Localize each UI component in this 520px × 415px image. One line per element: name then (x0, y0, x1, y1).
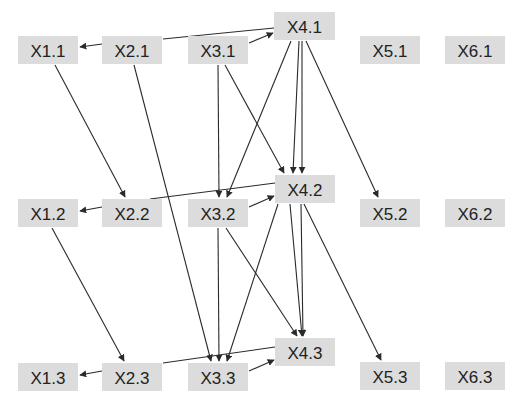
node-label: X4.1 (287, 18, 322, 37)
edge-X4-2-to-X5-3 (304, 204, 381, 360)
edge-X3-1-to-X4-1 (249, 33, 273, 43)
edge-X4-1-to-X3-2 (227, 41, 291, 197)
edge-X1-2-to-X2-3 (52, 228, 124, 361)
node-X5-2: X5.2 (360, 199, 420, 227)
node-label: X6.1 (458, 42, 493, 61)
node-label: X1.1 (31, 42, 66, 61)
node-label: X5.3 (373, 368, 408, 387)
edge-X2-1-to-X1-1 (80, 44, 102, 47)
node-X2-2: X2.2 (102, 199, 162, 227)
edge-X4-1-to-X4-2 (293, 41, 299, 173)
node-X2-3: X2.3 (102, 363, 162, 391)
node-X1-2: X1.2 (18, 199, 78, 227)
causal-graph-diagram: X1.1X2.1X3.1X4.1X5.1X6.1X1.2X2.2X3.2X4.2… (0, 0, 520, 415)
node-label: X6.3 (458, 368, 493, 387)
edge-X1-1-to-X2-2 (55, 65, 125, 197)
node-X5-3: X5.3 (360, 362, 420, 390)
node-X1-1: X1.1 (18, 36, 78, 64)
node-X6-3: X6.3 (445, 362, 505, 390)
edge-X3-1-to-X4-2 (225, 65, 284, 173)
node-X6-1: X6.1 (445, 36, 505, 64)
node-X4-3: X4.3 (275, 338, 335, 366)
edge-X3-2-to-X4-2 (249, 196, 274, 207)
node-label: X2.2 (115, 205, 150, 224)
edge-X3-2-to-X3-3 (218, 228, 219, 361)
node-X1-3: X1.3 (18, 363, 78, 391)
node-label: X6.2 (458, 205, 493, 224)
node-label: X2.1 (115, 42, 150, 61)
node-label: X3.2 (201, 205, 236, 224)
edge-X3-3-to-X4-3 (249, 360, 274, 371)
node-X3-1: X3.1 (188, 36, 248, 64)
node-label: X5.1 (373, 42, 408, 61)
node-label: X5.2 (373, 205, 408, 224)
edge-X3-2-to-X4-3 (226, 228, 297, 336)
node-label: X3.1 (201, 42, 236, 61)
edge-X4-2-to-X4-3 (290, 204, 302, 336)
node-X2-1: X2.1 (102, 36, 162, 64)
node-X5-1: X5.1 (360, 36, 420, 64)
edge-X2-2-to-X1-2 (80, 207, 102, 211)
node-label: X4.2 (288, 181, 323, 200)
edge-X4-2-to-X4-3 (301, 204, 303, 336)
node-X4-2: X4.2 (275, 175, 335, 203)
node-X3-3: X3.3 (188, 363, 248, 391)
node-label: X2.3 (115, 369, 150, 388)
edge-X4-1-to-X5-2 (306, 41, 378, 197)
edge-X3-1-to-X3-2 (218, 65, 219, 197)
node-label: X4.3 (288, 344, 323, 363)
edge-X2-3-to-X1-3 (80, 371, 102, 375)
node-X3-2: X3.2 (188, 199, 248, 227)
node-label: X1.3 (31, 369, 66, 388)
edge-X4-2-to-X3-3 (227, 204, 278, 361)
node-X4-1: X4.1 (274, 12, 335, 40)
node-label: X1.2 (31, 205, 66, 224)
node-label: X3.3 (201, 369, 236, 388)
node-X6-2: X6.2 (445, 199, 505, 227)
